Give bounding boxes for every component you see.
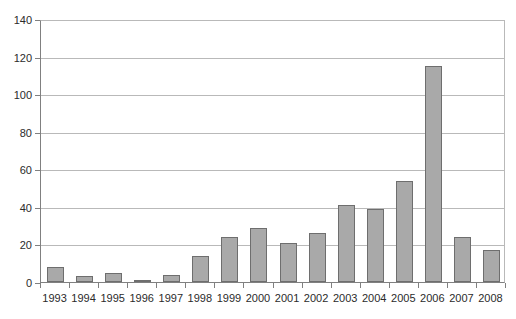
bar-2004 — [367, 209, 384, 282]
y-tick-label: 40 — [0, 203, 32, 214]
bar-1997 — [163, 275, 180, 283]
y-tick-label: 60 — [0, 165, 32, 176]
plot-area — [40, 20, 505, 283]
x-tick-mark — [214, 283, 215, 288]
x-tick-mark — [273, 283, 274, 288]
bar-1996 — [134, 280, 151, 282]
bar-1994 — [76, 276, 93, 282]
bar-2002 — [309, 233, 326, 282]
bar-2006 — [425, 66, 442, 282]
y-tick-label: 80 — [0, 128, 32, 139]
x-tick-label-2008: 2008 — [470, 292, 510, 304]
x-tick-mark — [302, 283, 303, 288]
y-tick-label: 120 — [0, 53, 32, 64]
x-tick-mark — [156, 283, 157, 288]
x-tick-mark — [447, 283, 448, 288]
bar-chart: 020406080100120140 199319941995199619971… — [0, 0, 516, 319]
x-tick-mark — [127, 283, 128, 288]
bar-1995 — [105, 273, 122, 282]
x-tick-mark — [98, 283, 99, 288]
y-tick-label: 140 — [0, 15, 32, 26]
bar-2003 — [338, 205, 355, 282]
y-tick-label: 100 — [0, 90, 32, 101]
y-tick-label: 20 — [0, 240, 32, 251]
y-tick-label: 0 — [0, 278, 32, 289]
x-tick-mark — [40, 283, 41, 288]
x-tick-mark — [389, 283, 390, 288]
bar-2007 — [454, 237, 471, 282]
x-tick-mark — [69, 283, 70, 288]
x-tick-mark — [418, 283, 419, 288]
x-tick-mark — [360, 283, 361, 288]
bar-1993 — [47, 267, 64, 282]
x-tick-mark — [331, 283, 332, 288]
x-tick-mark — [243, 283, 244, 288]
x-axis: 1993199419951996199719981999200020012002… — [40, 283, 505, 319]
bar-series — [41, 21, 504, 282]
clipped-title-strip — [0, 0, 516, 9]
x-tick-mark — [476, 283, 477, 288]
bar-2008 — [483, 250, 500, 282]
bar-2001 — [280, 243, 297, 282]
bar-1998 — [192, 256, 209, 282]
x-tick-mark — [185, 283, 186, 288]
bar-1999 — [221, 237, 238, 282]
bar-2000 — [250, 228, 267, 282]
bar-2005 — [396, 181, 413, 282]
x-tick-mark — [505, 283, 506, 288]
